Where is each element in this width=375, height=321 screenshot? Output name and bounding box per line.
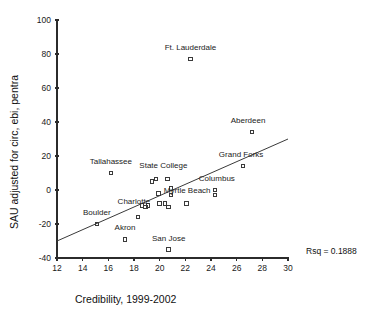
rsq-annotation: Rsq = 0.1888 bbox=[306, 246, 357, 256]
y-tick-label: 20 bbox=[42, 151, 52, 161]
data-point-marker bbox=[163, 202, 166, 205]
y-tick-label: 40 bbox=[42, 117, 52, 127]
data-point-label: State College bbox=[139, 161, 188, 170]
data-point-marker bbox=[250, 131, 253, 134]
data-point-marker bbox=[150, 180, 153, 183]
data-point-marker bbox=[167, 205, 170, 208]
data-point-label: Akron bbox=[115, 223, 136, 232]
scatter-plot-figure: -40-2002040608010012141618202224262830 F… bbox=[0, 0, 375, 321]
data-point-label: San Jose bbox=[152, 234, 186, 243]
x-axis-title: Credibility, 1999-2002 bbox=[75, 293, 177, 305]
x-tick-label: 14 bbox=[78, 263, 88, 273]
x-tick-label: 24 bbox=[206, 263, 216, 273]
data-point-marker bbox=[213, 193, 216, 196]
data-point-label: Aberdeen bbox=[231, 116, 266, 125]
data-point-marker bbox=[123, 238, 126, 241]
data-point-marker bbox=[154, 177, 157, 180]
x-tick-label: 22 bbox=[181, 263, 191, 273]
y-tick-label: -40 bbox=[39, 253, 52, 263]
y-tick-label: -20 bbox=[39, 219, 52, 229]
data-point-label: Boulder bbox=[83, 208, 111, 217]
y-tick-label: 80 bbox=[42, 49, 52, 59]
data-point-marker bbox=[109, 171, 112, 174]
data-point-marker bbox=[166, 177, 169, 180]
data-point-label: Myrtle Beach bbox=[164, 186, 211, 195]
x-tick-label: 30 bbox=[283, 263, 293, 273]
data-point-marker bbox=[189, 57, 192, 60]
y-tick-label: 100 bbox=[37, 15, 51, 25]
data-point-label: Charlotte bbox=[118, 197, 151, 206]
x-tick-label: 16 bbox=[104, 263, 114, 273]
data-point-label: Columbus bbox=[199, 174, 235, 183]
data-point-marker bbox=[136, 216, 139, 219]
axes bbox=[57, 20, 288, 258]
x-tick-label: 18 bbox=[129, 263, 139, 273]
data-point-marker bbox=[185, 202, 188, 205]
data-point-label: Tallahassee bbox=[90, 157, 133, 166]
x-tick-label: 26 bbox=[232, 263, 242, 273]
y-tick-label: 60 bbox=[42, 83, 52, 93]
data-point-marker bbox=[158, 202, 161, 205]
x-tick-label: 12 bbox=[52, 263, 62, 273]
data-point-marker bbox=[167, 248, 170, 251]
y-axis-title: SAU adjusted for circ, ebi, pentra bbox=[8, 75, 20, 229]
data-point-labels: Ft. LauderdaleAberdeenGrand ForksTallaha… bbox=[83, 43, 265, 242]
x-tick-label: 28 bbox=[258, 263, 268, 273]
data-point-marker bbox=[157, 192, 160, 195]
data-point-label: Ft. Lauderdale bbox=[165, 43, 217, 52]
data-point-label: Grand Forks bbox=[219, 150, 263, 159]
tick-marks bbox=[55, 20, 289, 261]
data-point-marker bbox=[241, 165, 244, 168]
y-tick-label: 0 bbox=[46, 185, 51, 195]
x-tick-label: 20 bbox=[155, 263, 165, 273]
chart-canvas: -40-2002040608010012141618202224262830 F… bbox=[0, 0, 375, 321]
data-point-marker bbox=[213, 188, 216, 191]
